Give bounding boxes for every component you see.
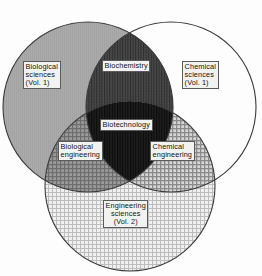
venn-diagram: Biological sciences (Vol. 1) Chemical sc… bbox=[0, 0, 262, 276]
label-chemical-sciences: Chemical sciences (Vol. 1) bbox=[182, 61, 219, 89]
venn-diagram-canvas bbox=[0, 0, 262, 276]
label-biochemistry: Biochemistry bbox=[102, 60, 150, 72]
label-biotechnology: Biotechnology bbox=[100, 119, 153, 131]
label-biological-sciences: Biological sciences (Vol. 1) bbox=[23, 61, 61, 89]
label-biological-engineering: Biological engineering bbox=[58, 141, 103, 161]
label-chemical-engineering: Chemical engineering bbox=[150, 141, 195, 161]
label-engineering-sciences: Engineering sciences (Vol. 2) bbox=[103, 200, 148, 228]
